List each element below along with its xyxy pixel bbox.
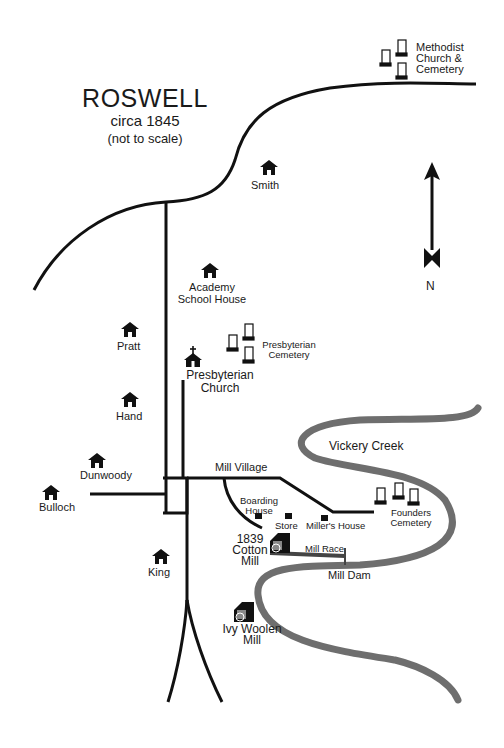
label-pratt: Pratt [117, 340, 140, 352]
label-presbyterian-cemetery: Presbyterian Cemetery [258, 340, 320, 360]
label-founders-cemetery: Founders Cemetery [386, 508, 436, 528]
label-presbyterian-church: Presbyterian Church [180, 369, 260, 395]
map-title-block: ROSWELL circa 1845 (not to scale) [60, 84, 230, 147]
label-mill-race: Mill Race [305, 544, 344, 554]
label-boarding-house: Boarding House [238, 496, 280, 516]
house-icon-dunwoody [88, 453, 106, 468]
gravestones-icon-founders [375, 483, 419, 505]
house-icon-king [152, 549, 170, 564]
label-cotton-mill: 1839 Cotton Mill [230, 534, 270, 567]
house-icon-pratt [121, 322, 139, 337]
church-icon [184, 346, 202, 367]
house-icon-hand [121, 392, 139, 407]
label-hand: Hand [116, 410, 142, 422]
label-king: King [148, 566, 170, 578]
compass-label: N [426, 280, 435, 293]
house-icon-academy [201, 263, 219, 278]
map-scale-note: (not to scale) [60, 130, 230, 147]
gravestones-icon-methodist [380, 40, 407, 79]
label-ivy-woolen-mill: Ivy Woolen Mill [222, 624, 282, 646]
label-bulloch: Bulloch [39, 501, 75, 513]
label-dunwoody: Dunwoody [80, 469, 132, 481]
map-date: circa 1845 [60, 112, 230, 130]
house-icon-bulloch [42, 485, 60, 500]
label-millers-house: Miller's House [306, 521, 365, 531]
label-mill-dam: Mill Dam [328, 569, 371, 581]
label-store: Store [275, 521, 298, 531]
store-marker [285, 513, 292, 519]
cotton-mill-icon [270, 533, 290, 553]
gravestones-icon-presbyterian [227, 324, 254, 363]
label-methodist: Methodist Church & Cemetery [416, 42, 464, 75]
woolen-mill-icon [234, 602, 254, 622]
house-icon-smith [260, 160, 278, 175]
map-title: ROSWELL [60, 84, 230, 112]
label-smith: Smith [251, 179, 279, 191]
label-academy: Academy School House [172, 281, 252, 305]
north-arrow-icon [424, 162, 440, 268]
label-mill-village: Mill Village [215, 461, 267, 473]
label-vickery-creek: Vickery Creek [329, 440, 403, 453]
road-mill-village [187, 478, 374, 512]
